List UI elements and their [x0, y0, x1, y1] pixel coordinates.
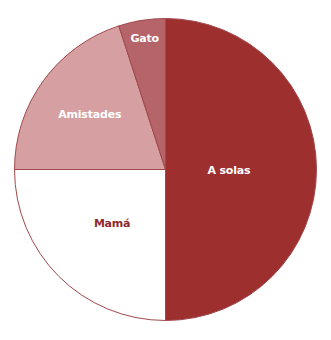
slice-label-amistades: Amistades: [58, 108, 121, 121]
slice-label-gato: Gato: [130, 32, 158, 45]
slice-label-a-solas: A solas: [208, 163, 251, 176]
pie-slice-mam-: [15, 170, 166, 321]
pie-slices: [15, 19, 317, 321]
slice-label-mama: Mamá: [94, 216, 130, 229]
pie-chart: [0, 0, 331, 340]
